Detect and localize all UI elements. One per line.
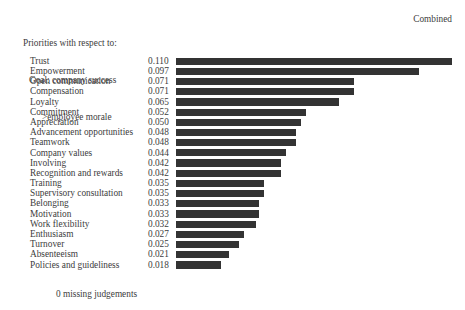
bar	[176, 139, 296, 146]
bar-track	[176, 170, 452, 177]
bar-row-label: Commitment	[30, 107, 79, 117]
bar-row: Enthusiasm0.027	[0, 230, 465, 240]
bar	[176, 109, 306, 116]
bar-row: Policies and guideliness0.018	[0, 261, 465, 271]
bar-row-value: 0.065	[148, 97, 176, 107]
bar	[176, 210, 259, 217]
bar	[176, 68, 419, 75]
bar-row-value: 0.032	[148, 219, 176, 229]
bar-row-value: 0.042	[148, 158, 176, 168]
bar-track	[176, 190, 452, 197]
bar-track	[176, 139, 452, 146]
bar-track	[176, 98, 452, 105]
bar	[176, 241, 239, 248]
bar-row-label: Training	[30, 178, 62, 188]
bar-track	[176, 241, 452, 248]
bar-track	[176, 231, 452, 238]
bar	[176, 190, 264, 197]
bar-row-label: Work flexibility	[30, 219, 89, 229]
bar-row-value: 0.033	[148, 198, 176, 208]
bar-track	[176, 78, 452, 85]
bar-row-label: Company values	[30, 148, 92, 158]
bar-row-label: Turnover	[30, 239, 64, 249]
bar-row-value: 0.071	[148, 86, 176, 96]
bar-row-value: 0.018	[148, 260, 176, 270]
bar-row: Recognition and rewards0.042	[0, 169, 465, 179]
bar	[176, 78, 354, 85]
bar	[176, 98, 339, 105]
bar	[176, 200, 259, 207]
missing-judgements-note: 0 missing judgements	[56, 289, 137, 300]
bar-row-label: Recognition and rewards	[30, 168, 123, 178]
bar-row-label: Enthusiasm	[30, 229, 73, 239]
bar-track	[176, 129, 452, 136]
bar-row: Supervisory consultation0.035	[0, 189, 465, 199]
bar	[176, 170, 281, 177]
bar-row-value: 0.021	[148, 249, 176, 259]
bar	[176, 221, 256, 228]
priorities-bar-chart: Priorities with respect to: Goal: compan…	[0, 0, 465, 310]
bar-row-value: 0.025	[148, 239, 176, 249]
bar	[176, 149, 286, 156]
bar	[176, 88, 354, 95]
bar-row-label: Advancement opportunities	[30, 127, 133, 137]
bar-row-label: Appreciation	[30, 117, 79, 127]
bar-track	[176, 109, 452, 116]
bar-track	[176, 210, 452, 217]
bar	[176, 251, 229, 258]
bar	[176, 119, 301, 126]
bar-row: Company values0.044	[0, 149, 465, 159]
bar-track	[176, 149, 452, 156]
bar-row-label: Supervisory consultation	[30, 188, 123, 198]
bar-row: Compensation0.071	[0, 88, 465, 98]
bar	[176, 261, 221, 268]
bar-row-label: Teamwork	[30, 137, 70, 147]
bar-row-value: 0.048	[148, 137, 176, 147]
bar-row-label: Involving	[30, 158, 66, 168]
bar-track	[176, 251, 452, 258]
bar-row-label: Compensation	[30, 86, 84, 96]
bar-track	[176, 200, 452, 207]
bar-row-value: 0.052	[148, 107, 176, 117]
bar-track	[176, 159, 452, 166]
bar-row-value: 0.050	[148, 117, 176, 127]
bar-row-label: Absenteeism	[30, 249, 78, 259]
bar-row-label: Belonging	[30, 198, 69, 208]
bar-track	[176, 119, 452, 126]
bar-row-value: 0.044	[148, 148, 176, 158]
bar-track	[176, 68, 452, 75]
bar-row-list: Trust0.110Empowerment0.097Open communica…	[0, 57, 465, 271]
bar	[176, 159, 281, 166]
bar-track	[176, 88, 452, 95]
bar-track	[176, 180, 452, 187]
bar-row-label: Open communication	[30, 76, 110, 86]
bar-row-value: 0.110	[148, 56, 176, 66]
bar-row-label: Policies and guideliness	[30, 260, 119, 270]
bar-row-value: 0.027	[148, 229, 176, 239]
bar	[176, 180, 264, 187]
bar-row-value: 0.042	[148, 168, 176, 178]
bar-row-label: Trust	[30, 56, 49, 66]
bar	[176, 58, 452, 65]
bar-row-value: 0.071	[148, 76, 176, 86]
bar-row-label: Motivation	[30, 209, 71, 219]
mode-label: Combined	[413, 13, 452, 25]
bar-row-label: Loyalty	[30, 97, 59, 107]
bar-track	[176, 58, 452, 65]
bar-track	[176, 261, 452, 268]
bar-row-value: 0.033	[148, 209, 176, 219]
bar-row-value: 0.097	[148, 66, 176, 76]
bar	[176, 231, 244, 238]
bar-row-value: 0.035	[148, 188, 176, 198]
bar-row-label: Empowerment	[30, 66, 85, 76]
bar-row-value: 0.048	[148, 127, 176, 137]
bar-row-value: 0.035	[148, 178, 176, 188]
bar	[176, 129, 296, 136]
chart-title-line-1: Priorities with respect to:	[23, 37, 117, 49]
bar-track	[176, 221, 452, 228]
